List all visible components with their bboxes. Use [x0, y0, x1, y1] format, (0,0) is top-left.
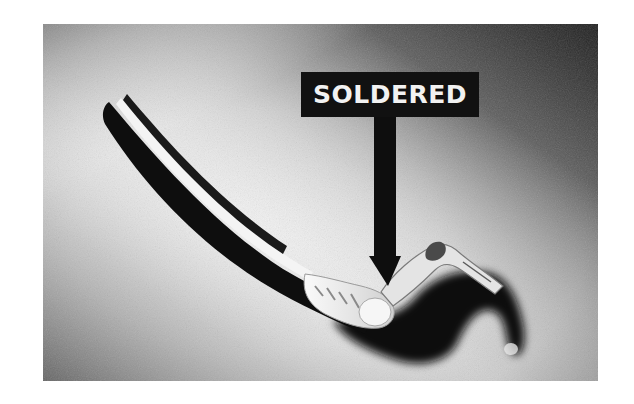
- callout-arrow-stem: [374, 114, 396, 264]
- page: SOLDERED: [0, 0, 634, 404]
- callout-label: SOLDERED: [313, 80, 467, 109]
- photograph: SOLDERED: [43, 24, 598, 381]
- callout-label-box: SOLDERED: [301, 72, 479, 117]
